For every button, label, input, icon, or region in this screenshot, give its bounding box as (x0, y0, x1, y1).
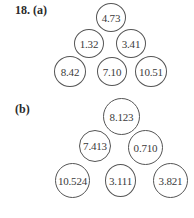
problem-label-b: (b) (15, 103, 30, 115)
circle-b-r3-c2: 3.111 (105, 164, 136, 197)
circle-b-r3-c1: 10.524 (55, 163, 90, 198)
circle-b-r1-c1: 8.123 (103, 98, 140, 135)
circle-a-r3-c3: 10.51 (135, 56, 167, 87)
circle-b-r2-c2: 0.710 (128, 130, 163, 165)
circle-a-r1-c1: 4.73 (96, 3, 126, 32)
problem-label-a: 18. (a) (15, 4, 47, 16)
circle-a-r2-c2: 3.41 (116, 29, 146, 58)
circle-a-r2-c1: 1.32 (74, 29, 104, 58)
circle-b-r3-c3: 3.821 (153, 163, 188, 198)
circle-b-r2-c1: 7.413 (79, 130, 111, 162)
circle-a-r3-c1: 8.42 (54, 56, 86, 87)
circle-a-r3-c2: 7.10 (97, 57, 127, 86)
